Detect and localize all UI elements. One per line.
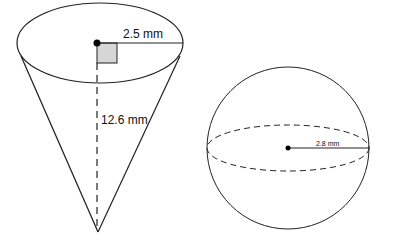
- sphere-center-dot: [286, 146, 291, 151]
- cone-center-dot: [94, 40, 101, 47]
- cone-height-label: 12.6 mm: [101, 113, 148, 127]
- cone-radius-label: 2.5 mm: [123, 27, 163, 41]
- sphere-radius-label: 2.8 mm: [316, 140, 340, 147]
- cone: 2.5 mm 12.6 mm: [17, 3, 183, 232]
- right-angle-marker: [97, 43, 117, 63]
- geometry-figure: 2.5 mm 12.6 mm 2.8 mm: [0, 0, 394, 245]
- sphere: 2.8 mm: [207, 67, 369, 229]
